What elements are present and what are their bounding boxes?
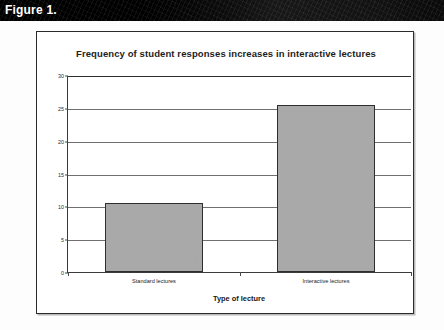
y-tick-label: 5 bbox=[61, 237, 64, 243]
x-category-label: Standard lectures bbox=[132, 278, 176, 284]
plot-area: 051015202530 Standard lecturesInteractiv… bbox=[67, 76, 411, 273]
bar bbox=[105, 203, 203, 272]
y-tick-mark bbox=[65, 207, 68, 208]
y-tick-mark bbox=[65, 108, 68, 109]
x-tick-mark bbox=[411, 272, 412, 276]
x-tick-mark bbox=[240, 272, 241, 276]
chart-frame: Frequency of student responses increases… bbox=[36, 31, 414, 314]
x-axis-title: Type of lecture bbox=[67, 294, 411, 303]
y-tick-mark bbox=[65, 174, 68, 175]
y-tick-mark bbox=[65, 76, 68, 77]
y-tick-label: 20 bbox=[58, 139, 64, 145]
gridline bbox=[68, 76, 411, 77]
y-tick-mark bbox=[65, 141, 68, 142]
bar bbox=[277, 105, 375, 272]
y-tick-mark bbox=[65, 240, 68, 241]
figure-banner: Figure 1. bbox=[0, 0, 444, 21]
banner-texture bbox=[0, 0, 444, 21]
y-tick-label: 25 bbox=[58, 106, 64, 112]
x-category-label: Interactive lectures bbox=[303, 278, 350, 284]
y-tick-label: 30 bbox=[58, 73, 64, 79]
y-tick-label: 10 bbox=[58, 204, 64, 210]
y-tick-label: 15 bbox=[58, 172, 64, 178]
x-tick-mark bbox=[68, 272, 69, 276]
chart-title: Frequency of student responses increases… bbox=[37, 48, 415, 59]
y-tick-label: 0 bbox=[61, 270, 64, 276]
figure-label: Figure 1. bbox=[5, 3, 57, 18]
